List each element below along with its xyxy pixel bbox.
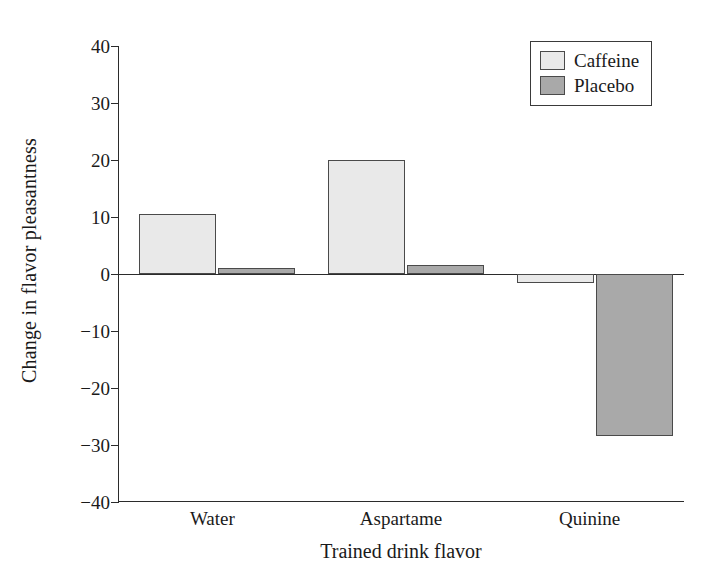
x-tick-label-aspartame: Aspartame	[360, 508, 442, 530]
x-axis-title: Trained drink flavor	[118, 540, 684, 563]
y-tick-mark	[111, 445, 119, 446]
y-tick-mark	[111, 331, 119, 332]
y-tick-label: 30	[64, 94, 110, 113]
bar-chart: Change in flavor pleasantness 403020100−…	[0, 0, 709, 582]
legend-entry-caffeine: Caffeine	[540, 48, 639, 73]
y-tick-label: −20	[64, 379, 110, 398]
legend-swatch-caffeine-icon	[540, 51, 565, 70]
y-tick-label: 0	[64, 265, 110, 284]
y-axis-tick-labels: 403020100−10−20−30−40	[58, 0, 110, 582]
y-tick-label: 20	[64, 151, 110, 170]
plot-area	[118, 46, 684, 502]
y-tick-mark	[111, 46, 119, 47]
y-tick-mark	[111, 160, 119, 161]
y-tick-mark	[111, 388, 119, 389]
bar-water-placebo	[218, 268, 295, 274]
x-tick-label-quinine: Quinine	[559, 508, 620, 530]
y-tick-mark	[111, 103, 119, 104]
chart-legend: CaffeinePlacebo	[530, 41, 652, 106]
y-tick-mark	[111, 217, 119, 218]
y-tick-label: 40	[64, 37, 110, 56]
y-tick-label: 10	[64, 208, 110, 227]
y-tick-label: −40	[64, 493, 110, 512]
y-tick-label: −10	[64, 322, 110, 341]
y-tick-label: −30	[64, 436, 110, 455]
bar-aspartame-placebo	[407, 265, 484, 274]
y-tick-mark	[111, 502, 119, 503]
bar-quinine-caffeine	[517, 274, 594, 283]
legend-label: Caffeine	[574, 51, 639, 70]
x-tick-label-water: Water	[190, 508, 235, 530]
y-axis-title: Change in flavor pleasantness	[0, 0, 60, 520]
y-axis-title-text: Change in flavor pleasantness	[19, 137, 42, 382]
y-tick-mark	[111, 274, 119, 275]
bar-water-caffeine	[139, 214, 216, 274]
legend-entry-placebo: Placebo	[540, 73, 639, 98]
bar-quinine-placebo	[596, 274, 673, 436]
legend-label: Placebo	[574, 76, 634, 95]
bar-aspartame-caffeine	[328, 160, 405, 274]
legend-swatch-placebo-icon	[540, 76, 565, 95]
